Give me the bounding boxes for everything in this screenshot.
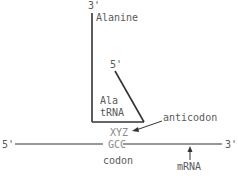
mrna-arrow-head <box>188 146 193 152</box>
mrna-three-prime-label: 3' <box>225 140 237 150</box>
anticodon-arrow-head <box>132 127 139 132</box>
trna-five-prime-label: 5' <box>110 60 122 70</box>
codon-label: codon <box>103 156 133 166</box>
anticodon-label: anticodon <box>163 113 217 123</box>
trna-name-line1: Ala <box>100 96 118 106</box>
trna-name-line2: tRNA <box>100 108 124 118</box>
codon-sequence: GCC <box>108 140 126 150</box>
anticodon-sequence: XYZ <box>110 128 128 138</box>
mrna-label: mRNA <box>177 162 201 172</box>
amino-acid-label: Alanine <box>96 13 138 23</box>
mrna-five-prime-label: 5' <box>2 140 14 150</box>
trna-three-prime-label: 3' <box>88 1 100 11</box>
